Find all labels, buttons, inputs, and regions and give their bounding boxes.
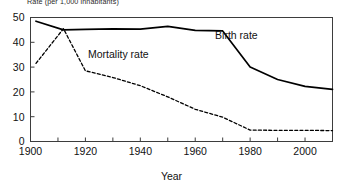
rate-line-chart: Rate (per 1,000 inhabitants) 01020304050… xyxy=(0,0,343,193)
y-tick-label: 10 xyxy=(13,111,25,123)
annotation-mortality-rate: Mortality rate xyxy=(88,48,149,60)
annotation-birth-rate: Birth rate xyxy=(215,29,258,41)
y-axis-ticks: 01020304050 xyxy=(13,11,35,147)
data-series xyxy=(36,21,333,130)
y-tick-label: 40 xyxy=(13,36,25,48)
y-tick-label: 50 xyxy=(13,11,25,23)
x-tick-label: 1960 xyxy=(184,145,208,157)
plot-area: 01020304050 190019201940196019802000 Bir… xyxy=(0,0,343,193)
series-line-birth-rate xyxy=(36,21,333,89)
series-line-mortality-rate xyxy=(36,29,333,131)
x-tick-label: 2000 xyxy=(293,145,317,157)
y-tick-label: 20 xyxy=(13,86,25,98)
x-axis-ticks: 190019201940196019802000 xyxy=(19,138,333,157)
x-axis-title: Year xyxy=(0,170,343,182)
x-tick-label: 1900 xyxy=(19,145,43,157)
y-tick-label: 30 xyxy=(13,61,25,73)
x-tick-label: 1940 xyxy=(129,145,153,157)
x-tick-label: 1920 xyxy=(74,145,98,157)
x-tick-label: 1980 xyxy=(238,145,262,157)
plot-frame xyxy=(31,18,333,142)
